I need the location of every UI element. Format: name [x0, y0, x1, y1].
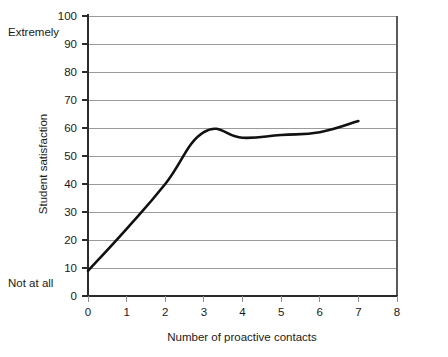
- x-axis-ticks: [88, 296, 397, 302]
- x-tick-label-8: 8: [394, 306, 400, 318]
- y-tick-label-30: 30: [64, 206, 77, 218]
- x-axis-title: Number of proactive contacts: [167, 331, 317, 343]
- x-tick-label-3: 3: [201, 306, 207, 318]
- y-tick-label-20: 20: [64, 234, 77, 246]
- scale-label-high: Extremely: [8, 26, 59, 38]
- chart-canvas: 100 90 80 70 60 50 40 30 20 10 0 0 1 2 3…: [0, 0, 448, 357]
- x-tick-label-6: 6: [317, 306, 323, 318]
- y-axis-title: Student satisfaction: [37, 114, 49, 214]
- satisfaction-line-chart: 100 90 80 70 60 50 40 30 20 10 0 0 1 2 3…: [0, 0, 448, 357]
- x-tick-label-1: 1: [123, 306, 129, 318]
- y-tick-label-80: 80: [64, 66, 77, 78]
- scale-label-low: Not at all: [8, 277, 53, 289]
- x-tick-label-7: 7: [355, 306, 361, 318]
- y-tick-label-70: 70: [64, 94, 77, 106]
- y-tick-label-10: 10: [64, 262, 77, 274]
- y-tick-label-0: 0: [71, 290, 77, 302]
- y-tick-label-100: 100: [58, 10, 77, 22]
- x-tick-label-4: 4: [239, 306, 246, 318]
- y-tick-label-40: 40: [64, 178, 77, 190]
- x-tick-label-0: 0: [85, 306, 91, 318]
- x-axis-tick-labels: 0 1 2 3 4 5 6 7 8: [85, 306, 400, 318]
- x-tick-label-2: 2: [162, 306, 168, 318]
- x-tick-label-5: 5: [278, 306, 284, 318]
- y-tick-label-90: 90: [64, 38, 77, 50]
- y-axis-ticks: [82, 16, 88, 296]
- y-tick-label-50: 50: [64, 150, 77, 162]
- y-axis-tick-labels: 100 90 80 70 60 50 40 30 20 10 0: [58, 10, 77, 302]
- y-tick-label-60: 60: [64, 122, 77, 134]
